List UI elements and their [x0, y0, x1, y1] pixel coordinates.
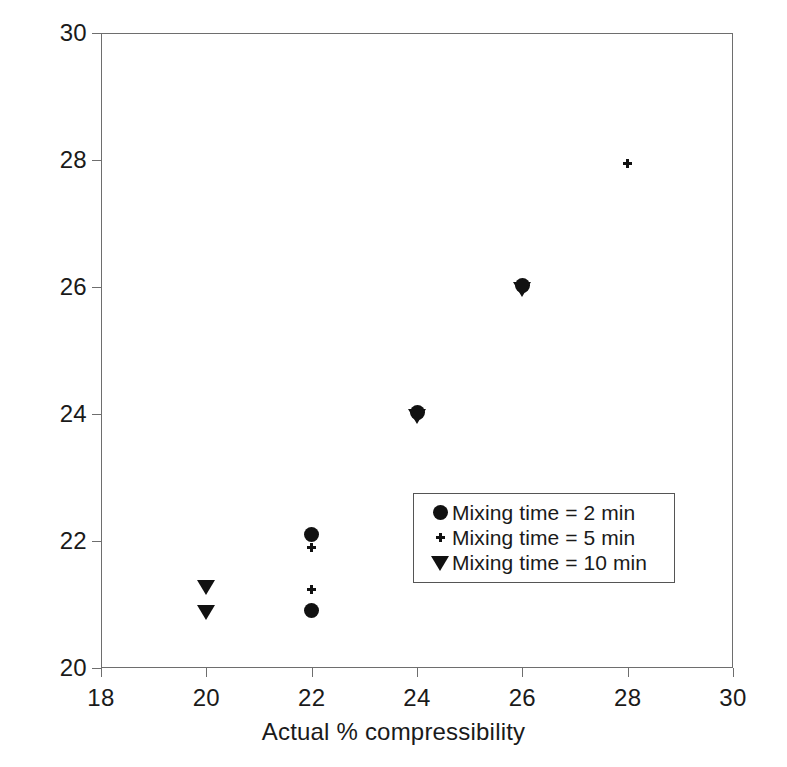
legend-swatch	[428, 525, 452, 550]
y-axis-tick	[92, 668, 101, 669]
x-axis-tick	[628, 668, 629, 677]
x-axis-tick	[312, 668, 313, 677]
x-axis-title: Actual % compressibility	[0, 718, 787, 746]
y-axis-tick-label: 22	[27, 529, 87, 553]
legend-swatch	[428, 550, 452, 575]
y-axis-tick	[92, 541, 101, 542]
circle-marker-icon	[433, 505, 448, 520]
legend-item-label: Mixing time = 10 min	[452, 552, 647, 573]
legend-item-label: Mixing time = 5 min	[452, 527, 635, 548]
x-axis-tick-label: 20	[171, 686, 241, 710]
plus-marker-icon	[436, 533, 445, 542]
x-axis-tick	[522, 668, 523, 677]
y-axis-tick-label: 24	[27, 402, 87, 426]
legend-swatch	[428, 500, 452, 525]
x-axis-tick	[206, 668, 207, 677]
x-axis-tick-label: 28	[593, 686, 663, 710]
x-axis-tick-label: 26	[487, 686, 557, 710]
y-axis-tick	[92, 33, 101, 34]
legend-box[interactable]: Mixing time = 2 minMixing time = 5 minMi…	[413, 493, 675, 583]
y-axis-tick-label: 20	[27, 656, 87, 680]
legend-item[interactable]: Mixing time = 10 min	[414, 550, 674, 575]
x-axis-tick	[417, 668, 418, 677]
y-axis-tick	[92, 414, 101, 415]
x-axis-tick-label: 22	[277, 686, 347, 710]
x-axis-tick	[101, 668, 102, 677]
legend-item[interactable]: Mixing time = 2 min	[414, 500, 674, 525]
scatter-plot-figure: 202224262830 18202224262830 Predicted % …	[0, 0, 787, 767]
legend-item-label: Mixing time = 2 min	[452, 502, 635, 523]
x-axis-tick-label: 18	[66, 686, 136, 710]
y-axis-tick-label: 28	[27, 148, 87, 172]
legend-item[interactable]: Mixing time = 5 min	[414, 525, 674, 550]
y-axis-tick-label: 26	[27, 275, 87, 299]
y-axis-tick-label: 30	[27, 21, 87, 45]
triangle-down-marker-icon	[431, 556, 449, 571]
y-axis-tick	[92, 160, 101, 161]
x-axis-tick-label: 24	[382, 686, 452, 710]
x-axis-tick	[733, 668, 734, 677]
y-axis-tick	[92, 287, 101, 288]
x-axis-tick-label: 30	[698, 686, 768, 710]
